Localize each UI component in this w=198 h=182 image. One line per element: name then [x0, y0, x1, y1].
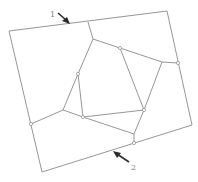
node-marker [142, 108, 145, 111]
annotation-2: 2 [113, 151, 136, 172]
label-1: 1 [50, 10, 55, 19]
node-marker [118, 46, 121, 49]
node-marker [29, 122, 32, 125]
mesh-nodes [29, 46, 179, 144]
diagram-canvas: 1 2 [0, 0, 198, 182]
inner-polygon [78, 39, 144, 117]
node-marker [132, 141, 135, 144]
node-marker [76, 72, 79, 75]
annotation-1: 1 [50, 10, 70, 24]
node-marker [81, 115, 84, 118]
arrowhead-icon [113, 151, 121, 158]
spoke-edges [31, 22, 178, 143]
node-marker [176, 61, 179, 64]
label-2: 2 [131, 163, 136, 172]
outer-boundary [9, 11, 192, 172]
